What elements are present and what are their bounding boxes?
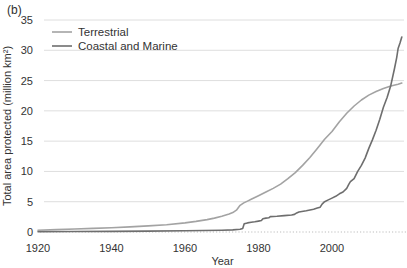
x-axis-title: Year	[211, 255, 234, 267]
protected-area-line-chart: 0510152025303519201940196019802000YearTo…	[0, 0, 407, 268]
figure-panel-b: (b) 0510152025303519201940196019802000Ye…	[0, 0, 407, 268]
y-tick-label: 5	[27, 196, 33, 208]
x-tick-label: 1920	[26, 242, 50, 254]
y-tick-label: 15	[21, 135, 33, 147]
x-tick-label: 1980	[246, 242, 270, 254]
x-tick-label: 1940	[99, 242, 123, 254]
y-tick-label: 0	[27, 226, 33, 238]
x-tick-label: 1960	[173, 242, 197, 254]
y-tick-label: 10	[21, 165, 33, 177]
y-tick-label: 35	[21, 14, 33, 26]
y-tick-label: 30	[21, 44, 33, 56]
figure-label: (b)	[7, 3, 22, 17]
x-tick-label: 2000	[320, 242, 344, 254]
y-tick-label: 20	[21, 105, 33, 117]
coastal-and-marine-line	[38, 37, 402, 232]
y-tick-label: 25	[21, 75, 33, 87]
series-lines	[38, 37, 402, 232]
legend-label-2: Coastal and Marine	[78, 40, 178, 52]
legend-label-1: Terrestrial	[78, 26, 128, 38]
legend: TerrestrialCoastal and Marine	[52, 26, 178, 52]
terrestrial-line	[38, 83, 402, 230]
y-axis-title: Total area protected (million km²)	[1, 46, 13, 206]
